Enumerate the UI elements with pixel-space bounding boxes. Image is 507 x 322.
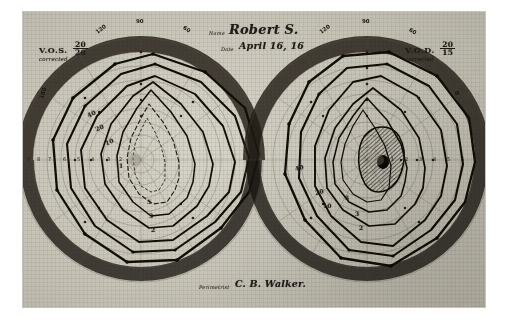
right-degree-90: 90	[362, 18, 370, 24]
right-merid-num-3: 3	[419, 156, 422, 162]
right-merid-num-5: 5	[447, 156, 450, 162]
left-merid-num-8: 8	[37, 156, 40, 162]
left-eye-field	[23, 38, 263, 282]
isopter-3-left	[117, 90, 195, 216]
right-acuity-abbr: V.O.D.	[405, 45, 435, 55]
right-merid-num-6: 6	[461, 156, 464, 162]
right-isopter-label-2: 2	[359, 224, 363, 231]
left-eye-acuity: V.O.S. 20 20 corrected	[39, 38, 88, 62]
left-isopter-label-1: 1	[119, 162, 123, 169]
left-merid-num-4: 4	[91, 156, 94, 162]
right-fixation-point	[374, 155, 384, 165]
left-merid-num-5: 5	[77, 156, 80, 162]
left-degree-90: 90	[136, 18, 144, 24]
right-acuity-denominator: 15	[440, 49, 455, 57]
left-merid-num-6: 6	[63, 156, 66, 162]
right-merid-num-4: 4	[433, 156, 436, 162]
right-isopter-label-5: 5	[345, 194, 349, 201]
perimetrist-value: C. B. Walker.	[235, 278, 306, 289]
right-merid-num-2: 2	[405, 156, 408, 162]
left-isopter-label-3: 3	[149, 212, 153, 219]
left-isopter-label-2: 2	[151, 226, 155, 233]
date-label: Date	[221, 46, 234, 52]
left-merid-num-9: 9	[27, 156, 30, 162]
right-merid-num-7: 7	[473, 156, 476, 162]
patient-name-label: Name	[209, 30, 225, 36]
left-acuity-denominator: 20	[73, 49, 88, 57]
patient-name-value: Robert S.	[229, 22, 298, 37]
right-isopter-label-3: 3	[355, 210, 359, 217]
perimetrist-label: Perimetrist	[199, 284, 230, 290]
right-merid-num-1: 1	[391, 156, 394, 162]
left-fixation-point	[129, 154, 142, 167]
left-merid-num-3: 3	[107, 156, 110, 162]
right-eye-acuity: V.O.D. 20 15 corrected	[405, 38, 455, 62]
right-isopter-label-10: 10	[323, 202, 332, 209]
left-merid-num-7: 7	[48, 156, 51, 162]
left-isopter-label-5: 5	[147, 198, 151, 205]
perimetry-chart-image: Name Robert S. Date April 16, 16 Perimet…	[0, 0, 507, 322]
chart-sheet: Name Robert S. Date April 16, 16 Perimet…	[23, 12, 485, 307]
left-acuity-abbr: V.O.S.	[39, 45, 68, 55]
date-value: April 16, 16	[239, 40, 304, 51]
